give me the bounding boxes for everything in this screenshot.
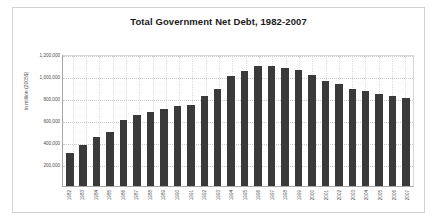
bar <box>295 70 303 186</box>
bar <box>308 75 316 186</box>
x-tick-label: 1987 <box>134 190 139 200</box>
bar <box>93 137 101 186</box>
x-tick-label: 2001 <box>323 190 328 200</box>
x-tick-label: 1982 <box>66 190 71 200</box>
x-tick-label: 1997 <box>269 190 274 200</box>
x-tick-label: 2006 <box>391 190 396 200</box>
x-axis-tick-labels: 1982198319841985198619871988198919901991… <box>62 189 414 221</box>
y-tick-label: 1,000,000 <box>4 75 60 80</box>
chart-title: Total Government Net Debt, 1982-2007 <box>0 16 437 27</box>
y-tick-label: 200,000 <box>4 163 60 168</box>
bar <box>79 145 87 186</box>
bar <box>322 81 330 186</box>
x-tick-label: 1994 <box>229 190 234 200</box>
bar-series <box>63 56 413 186</box>
x-tick-label: 1996 <box>256 190 261 200</box>
bar <box>174 106 182 186</box>
x-tick-label: 2007 <box>405 190 410 200</box>
x-tick-label: 2004 <box>364 190 369 200</box>
bar <box>133 115 141 186</box>
bar <box>389 96 397 186</box>
bar <box>201 96 209 186</box>
bar <box>362 91 370 186</box>
y-tick-label: 400,000 <box>4 141 60 146</box>
bar <box>187 105 195 186</box>
x-tick-label: 2000 <box>310 190 315 200</box>
x-tick-label: 1986 <box>120 190 125 200</box>
chart-figure: Total Government Net Debt, 1982-2007 In … <box>0 0 437 224</box>
x-tick-label: 1988 <box>147 190 152 200</box>
x-tick-label: 2005 <box>377 190 382 200</box>
y-tick-label: 600,000 <box>4 119 60 124</box>
bar <box>281 68 289 186</box>
bar <box>335 84 343 186</box>
plot-area <box>62 55 414 187</box>
x-tick-label: 1984 <box>93 190 98 200</box>
x-tick-label: 1995 <box>242 190 247 200</box>
bar <box>268 66 276 186</box>
x-tick-label: 1991 <box>188 190 193 200</box>
bar <box>66 153 74 186</box>
x-tick-label: 1983 <box>80 190 85 200</box>
bar <box>254 66 262 186</box>
bar <box>402 98 410 186</box>
x-tick-label: 1999 <box>296 190 301 200</box>
x-tick-label: 1993 <box>215 190 220 200</box>
bar <box>227 76 235 186</box>
bar <box>106 132 114 186</box>
x-tick-label: 1985 <box>107 190 112 200</box>
x-tick-label: 2002 <box>337 190 342 200</box>
x-tick-label: 1998 <box>283 190 288 200</box>
bar <box>375 94 383 186</box>
x-tick-label: 2003 <box>350 190 355 200</box>
y-tick-label: 1,200,000 <box>4 53 60 58</box>
bar <box>349 89 357 186</box>
x-tick-label: 1990 <box>175 190 180 200</box>
y-tick-label: 800,000 <box>4 97 60 102</box>
x-tick-label: 1989 <box>161 190 166 200</box>
bar <box>147 112 155 186</box>
bar <box>160 109 168 186</box>
bar <box>120 120 128 186</box>
x-tick-label: 1992 <box>202 190 207 200</box>
bar <box>214 89 222 186</box>
bar <box>241 71 249 186</box>
y-axis-tick-labels: 1,200,0001,000,000800,000600,000400,0002… <box>0 55 60 187</box>
